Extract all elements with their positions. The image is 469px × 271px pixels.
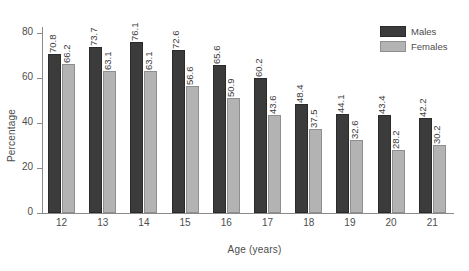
y-tick-label: 40 xyxy=(22,116,33,127)
bar-females[interactable]: 50.9 xyxy=(227,98,240,213)
bar-value-label: 60.2 xyxy=(253,58,264,77)
y-axis-line xyxy=(42,27,43,213)
legend-item-males: Males xyxy=(380,24,447,39)
bar-males[interactable]: 60.2 xyxy=(254,78,267,213)
bar-males[interactable]: 48.4 xyxy=(295,104,308,213)
y-tick-label: 80 xyxy=(22,26,33,37)
bar-value-label: 63.1 xyxy=(143,52,154,71)
bar-value-label: 65.6 xyxy=(211,46,222,65)
bar-value-label: 48.4 xyxy=(294,85,305,104)
bar-value-label: 44.1 xyxy=(335,94,346,113)
bar-males[interactable]: 43.4 xyxy=(378,115,391,213)
bar-value-label: 66.2 xyxy=(61,45,72,64)
bar-females[interactable]: 66.2 xyxy=(62,64,75,213)
y-tick: 60 xyxy=(37,78,42,79)
bar-females[interactable]: 28.2 xyxy=(392,150,405,213)
legend-swatch-males-icon xyxy=(380,26,406,37)
x-axis-line xyxy=(42,213,454,214)
x-tick-label: 13 xyxy=(89,217,116,228)
y-tick: 40 xyxy=(37,123,42,124)
x-tick-label: 17 xyxy=(254,217,281,228)
bar-chart: Percentage Age (years) 020406080 70.866.… xyxy=(0,0,469,271)
y-tick-label: 0 xyxy=(27,206,33,217)
bar-value-label: 76.1 xyxy=(129,22,140,41)
x-tick-label: 18 xyxy=(295,217,322,228)
bar-females[interactable]: 63.1 xyxy=(103,71,116,213)
bar-males[interactable]: 42.2 xyxy=(419,118,432,213)
y-axis-title: Percentage xyxy=(0,0,22,271)
y-tick: 80 xyxy=(37,33,42,34)
bar-value-label: 63.1 xyxy=(102,52,113,71)
legend-item-females: Females xyxy=(380,39,447,54)
bar-males[interactable]: 73.7 xyxy=(89,47,102,213)
bar-value-label: 70.8 xyxy=(47,34,58,53)
bar-males[interactable]: 65.6 xyxy=(213,65,226,213)
bar-value-label: 50.9 xyxy=(225,79,236,98)
bar-males[interactable]: 44.1 xyxy=(336,114,349,213)
bar-value-label: 43.4 xyxy=(376,96,387,115)
x-tick-label: 21 xyxy=(419,217,446,228)
y-tick: 0 xyxy=(37,213,42,214)
bar-females[interactable]: 37.5 xyxy=(309,129,322,213)
y-tick: 20 xyxy=(37,168,42,169)
bar-value-label: 37.5 xyxy=(308,109,319,128)
bar-value-label: 42.2 xyxy=(417,99,428,118)
x-tick-label: 19 xyxy=(336,217,363,228)
bar-value-label: 43.6 xyxy=(267,95,278,114)
bar-females[interactable]: 30.2 xyxy=(433,145,446,213)
x-tick-label: 12 xyxy=(48,217,75,228)
plot-area: 020406080 70.866.21273.763.11376.163.114… xyxy=(42,33,454,213)
bar-value-label: 73.7 xyxy=(88,28,99,47)
bar-females[interactable]: 32.6 xyxy=(350,140,363,213)
legend-label-females: Females xyxy=(411,41,447,52)
x-axis-title: Age (years) xyxy=(40,244,469,255)
bar-value-label: 28.2 xyxy=(390,130,401,149)
x-tick-label: 14 xyxy=(130,217,157,228)
y-tick-label: 60 xyxy=(22,71,33,82)
bar-females[interactable]: 63.1 xyxy=(144,71,157,213)
bar-value-label: 30.2 xyxy=(431,126,442,145)
bar-males[interactable]: 70.8 xyxy=(48,54,61,213)
x-tick-label: 15 xyxy=(172,217,199,228)
legend-swatch-females-icon xyxy=(380,41,406,52)
x-tick-label: 20 xyxy=(378,217,405,228)
bar-value-label: 56.6 xyxy=(184,66,195,85)
y-tick-label: 20 xyxy=(22,161,33,172)
bar-females[interactable]: 56.6 xyxy=(186,86,199,213)
bar-males[interactable]: 76.1 xyxy=(130,42,143,213)
legend-label-males: Males xyxy=(411,26,436,37)
x-tick-label: 16 xyxy=(213,217,240,228)
bar-females[interactable]: 43.6 xyxy=(268,115,281,213)
bar-males[interactable]: 72.6 xyxy=(172,50,185,213)
legend: Males Females xyxy=(380,24,447,54)
bar-value-label: 32.6 xyxy=(349,120,360,139)
bar-value-label: 72.6 xyxy=(170,30,181,49)
